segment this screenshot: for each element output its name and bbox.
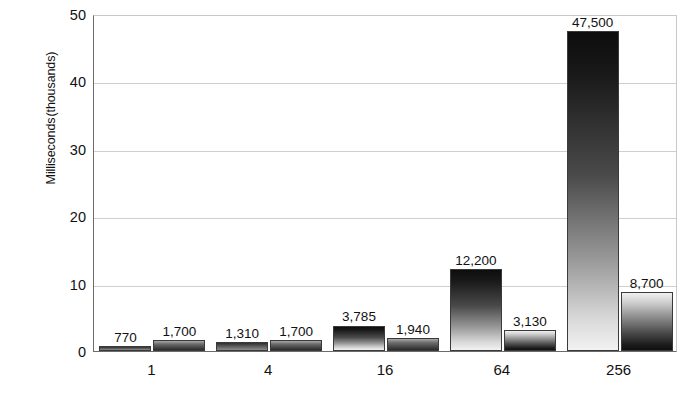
x-axis-tick-label: 64 <box>493 362 510 377</box>
bar-value-label: 1,700 <box>162 325 196 339</box>
bar-value-label: 12,200 <box>455 254 496 268</box>
x-axis-tick-label: 256 <box>606 362 631 377</box>
bar-series1-64 <box>450 269 502 351</box>
bar-chart: Milliseconds (thousands) 01020304050 770… <box>0 0 691 395</box>
plot-area: 7701,7001,3101,7003,7851,94012,2003,1304… <box>93 15 677 352</box>
bar-value-label: 47,500 <box>572 16 613 30</box>
y-axis-tick-labels: 01020304050 <box>54 0 86 395</box>
bar-series2-16 <box>387 338 439 351</box>
bar-value-label: 770 <box>114 331 137 345</box>
bar-value-label: 8,700 <box>630 277 664 291</box>
bar-value-label: 3,130 <box>513 315 547 329</box>
bar-value-label: 1,940 <box>396 323 430 337</box>
bar-value-label: 3,785 <box>342 310 376 324</box>
bar-series1-256 <box>567 31 619 351</box>
y-axis-tick-label: 40 <box>56 75 86 90</box>
bar-value-label: 1,700 <box>279 325 313 339</box>
x-axis-tick-label: 4 <box>264 362 272 377</box>
bar-series2-1 <box>153 340 205 351</box>
bar-series1-1 <box>99 346 151 351</box>
x-axis-tick-label: 16 <box>377 362 394 377</box>
y-axis-tick-label: 50 <box>56 8 86 23</box>
x-axis-tick-label: 1 <box>147 362 155 377</box>
bar-series1-4 <box>216 342 268 351</box>
y-axis-tick-label: 30 <box>56 143 86 158</box>
y-axis-tick-label: 10 <box>56 278 86 293</box>
bar-series2-4 <box>270 340 322 351</box>
bar-series2-64 <box>504 330 556 351</box>
bar-series1-16 <box>333 326 385 352</box>
bar-value-label: 1,310 <box>225 327 259 341</box>
bar-series2-256 <box>621 292 673 351</box>
y-axis-tick-label: 20 <box>56 210 86 225</box>
y-axis-tick-label: 0 <box>56 345 86 360</box>
